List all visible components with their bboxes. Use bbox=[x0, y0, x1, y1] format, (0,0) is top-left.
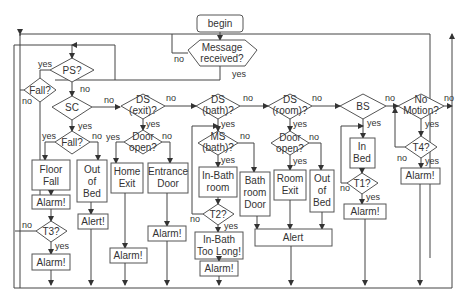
svg-text:Too Long!: Too Long! bbox=[197, 246, 241, 257]
svg-text:T2?: T2? bbox=[209, 209, 227, 220]
svg-text:yes: yes bbox=[55, 241, 70, 251]
svg-text:begin: begin bbox=[208, 18, 232, 29]
in-bath-too-long-box: In-Bath Too Long! bbox=[195, 232, 243, 259]
svg-text:Room: Room bbox=[277, 173, 304, 184]
ps-decision: PS? bbox=[50, 58, 94, 82]
svg-text:Door: Door bbox=[132, 131, 154, 142]
ms-bath-decision: MS (bath)? bbox=[198, 131, 238, 155]
svg-text:No: No bbox=[415, 94, 428, 105]
sc-decision: SC bbox=[52, 96, 92, 120]
svg-text:no: no bbox=[174, 54, 184, 64]
svg-text:yes: yes bbox=[232, 69, 247, 79]
svg-text:received?: received? bbox=[200, 53, 244, 64]
svg-text:yes: yes bbox=[42, 131, 57, 141]
svg-text:Floor: Floor bbox=[40, 164, 63, 175]
svg-text:Exit: Exit bbox=[282, 185, 299, 196]
svg-text:Door: Door bbox=[157, 178, 179, 189]
ds-exit-decision: DS (exit)? bbox=[121, 94, 165, 119]
svg-text:yes: yes bbox=[425, 156, 440, 166]
entrance-door-box: Entrance Door bbox=[148, 163, 188, 193]
svg-text:Message: Message bbox=[202, 42, 243, 53]
alert-box-1: Alert! bbox=[78, 214, 108, 229]
svg-text:DS: DS bbox=[211, 94, 225, 105]
svg-text:Bed: Bed bbox=[353, 153, 371, 164]
out-of-bed-box-2: Out of Bed bbox=[310, 170, 334, 212]
ds-room-decision: DS (room)? bbox=[268, 94, 312, 119]
svg-text:no: no bbox=[309, 132, 319, 142]
svg-text:Out: Out bbox=[314, 173, 330, 184]
alarm-box-1: Alarm! bbox=[32, 195, 70, 209]
floor-fall-box: Floor Fall bbox=[32, 160, 70, 190]
message-received-decision: Message received? bbox=[188, 40, 257, 66]
svg-text:no: no bbox=[22, 96, 32, 106]
t1-decision: T1? bbox=[347, 173, 378, 194]
svg-text:PS?: PS? bbox=[63, 65, 82, 76]
svg-text:yes: yes bbox=[293, 156, 308, 166]
svg-text:room: room bbox=[207, 182, 230, 193]
svg-text:(bath)?: (bath)? bbox=[202, 142, 234, 153]
svg-text:SC: SC bbox=[65, 102, 79, 113]
svg-text:In-Bath: In-Bath bbox=[203, 234, 235, 245]
alarm-box-7: Alarm! bbox=[401, 168, 440, 184]
alarm-box-5: Alarm! bbox=[200, 261, 238, 276]
svg-text:no: no bbox=[80, 84, 90, 94]
svg-text:yes: yes bbox=[224, 221, 239, 231]
svg-text:open?: open? bbox=[276, 143, 304, 154]
alert-box-2: Alert bbox=[255, 229, 332, 246]
svg-text:Bath: Bath bbox=[245, 175, 266, 186]
svg-text:Alarm!: Alarm! bbox=[351, 206, 380, 217]
svg-text:no: no bbox=[397, 153, 407, 163]
svg-text:Alarm!: Alarm! bbox=[205, 263, 234, 274]
in-bathroom-box: In-Bath room bbox=[199, 167, 237, 197]
alarm-box-2: Alarm! bbox=[32, 254, 70, 270]
t3-decision: T3? bbox=[36, 221, 67, 242]
bs-decision: BS bbox=[340, 94, 386, 119]
flowchart: begin Message received? no yes PS? yes n… bbox=[0, 0, 468, 304]
svg-text:Alarm!: Alarm! bbox=[153, 228, 182, 239]
svg-text:yes: yes bbox=[38, 59, 53, 69]
svg-text:Fall: Fall bbox=[43, 176, 59, 187]
svg-text:yes: yes bbox=[425, 119, 440, 129]
svg-text:no: no bbox=[444, 93, 454, 103]
alarm-box-6: Alarm! bbox=[344, 204, 386, 219]
ds-bath-decision: DS (bath)? bbox=[196, 94, 240, 119]
out-of-bed-box-1: Out of Bed bbox=[77, 160, 107, 202]
svg-text:Entrance: Entrance bbox=[148, 166, 188, 177]
svg-text:Alarm!: Alarm! bbox=[37, 257, 66, 268]
svg-text:of: of bbox=[318, 185, 327, 196]
svg-text:yes: yes bbox=[146, 119, 161, 129]
svg-text:yes: yes bbox=[221, 119, 236, 129]
svg-text:Door: Door bbox=[244, 199, 266, 210]
svg-text:yes: yes bbox=[78, 121, 93, 131]
svg-text:Alert: Alert bbox=[283, 232, 304, 243]
in-bed-box: In Bed bbox=[350, 138, 375, 168]
svg-text:Fall?: Fall? bbox=[29, 85, 51, 96]
svg-text:In-Bath: In-Bath bbox=[202, 170, 234, 181]
svg-text:no: no bbox=[162, 131, 172, 141]
svg-text:DS: DS bbox=[136, 94, 150, 105]
svg-text:yes: yes bbox=[106, 132, 121, 142]
svg-text:Door: Door bbox=[279, 132, 301, 143]
svg-text:no: no bbox=[312, 93, 322, 103]
svg-text:no: no bbox=[190, 214, 200, 224]
home-exit-box: Home Exit bbox=[111, 163, 143, 193]
svg-text:no: no bbox=[166, 93, 176, 103]
svg-text:DS: DS bbox=[283, 94, 297, 105]
svg-text:no: no bbox=[240, 131, 250, 141]
svg-text:T4?: T4? bbox=[412, 142, 430, 153]
svg-text:Motion?: Motion? bbox=[403, 105, 439, 116]
svg-text:Alarm!: Alarm! bbox=[406, 170, 435, 181]
alarm-box-3: Alarm! bbox=[110, 248, 147, 263]
svg-text:room: room bbox=[244, 187, 267, 198]
svg-text:Alarm!: Alarm! bbox=[114, 250, 143, 261]
svg-text:T3?: T3? bbox=[42, 226, 60, 237]
svg-text:no: no bbox=[92, 131, 102, 141]
svg-text:Home: Home bbox=[114, 166, 141, 177]
svg-text:yes: yes bbox=[367, 118, 382, 128]
svg-text:no: no bbox=[385, 93, 395, 103]
no-motion-decision: No Motion? bbox=[398, 94, 444, 119]
svg-text:Out: Out bbox=[84, 164, 100, 175]
svg-text:(exit)?: (exit)? bbox=[129, 105, 157, 116]
svg-text:of: of bbox=[88, 176, 97, 187]
svg-text:no: no bbox=[22, 220, 32, 230]
